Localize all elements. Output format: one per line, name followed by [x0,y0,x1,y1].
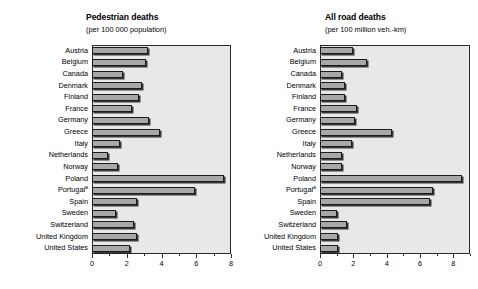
category-label: Spain [297,198,316,206]
category-label: Belgium [290,58,316,66]
bar [320,245,338,252]
category-label: Sweden [62,209,88,217]
axis-minor-tick [437,254,438,256]
bar [320,82,345,89]
axis-tick-label: 8 [229,260,233,268]
bar [92,59,146,66]
bar [92,94,139,101]
category-label: United States [272,244,316,252]
bar [320,94,345,101]
bar [92,210,116,217]
bar [92,117,149,124]
axis-tick-label: 6 [194,260,198,268]
axis-tick-label: 4 [159,260,163,268]
axis-tick-label: 0 [318,260,322,268]
bar [320,152,342,159]
bar [320,233,338,240]
axis-minor-tick [179,254,180,256]
chart-panel-all-road-deaths: All road deaths (per 100 million veh.-km… [239,0,478,289]
bar [320,117,355,124]
axis-tick-label: 8 [451,260,455,268]
category-label: Greece [292,128,316,136]
category-label: Austria [293,47,316,55]
bar [92,245,130,252]
category-label: Belgium [62,58,88,66]
axis-minor-tick [403,254,404,256]
axis-tick-label: 0 [90,260,94,268]
chart-header-right: All road deaths (per 100 million veh.-km… [325,12,475,35]
bar [320,140,352,147]
bar [320,221,347,228]
footnote-marker: a [85,184,88,190]
category-label: Netherlands [277,151,316,159]
bar [92,129,160,136]
bar [320,198,430,205]
category-label: Germany [58,116,88,124]
category-label: Sweden [290,209,316,217]
category-label: France [293,105,316,113]
axis-tick [420,254,421,258]
category-label: Switzerland [50,221,88,229]
category-label: Canada [290,70,316,78]
chart-title-right: All road deaths [325,12,475,23]
category-label: Portugala [58,186,88,194]
category-label: Norway [63,163,88,171]
category-label: Spain [69,198,88,206]
category-label: Canada [62,70,88,78]
category-label: Austria [65,47,88,55]
bar [92,47,148,54]
bar [92,105,132,112]
chart-title-left: Pedestrian deaths [86,12,236,23]
bar [92,198,137,205]
axis-tick [196,254,197,258]
category-label: Poland [65,175,88,183]
category-label: Germany [286,116,316,124]
bar [320,175,462,182]
category-label: Poland [293,175,316,183]
axis-tick [92,254,93,258]
category-label: Denmark [58,82,88,90]
category-label: Netherlands [49,151,88,159]
chart-subtitle-left: (per 100 000 population) [86,24,236,35]
footnote-marker: a [313,184,316,190]
chart-header-left: Pedestrian deaths (per 100 000 populatio… [86,12,236,35]
bar [92,152,108,159]
bar [92,221,134,228]
category-axis-right: AustriaBelgiumCanadaDenmarkFinlandFrance… [239,45,316,254]
category-label: United Kingdom [264,233,316,241]
axis-minor-tick [144,254,145,256]
bar [320,105,357,112]
bar [320,163,342,170]
axis-tick [387,254,388,258]
bar [320,129,392,136]
category-label: United States [44,244,88,252]
figure-container: Pedestrian deaths (per 100 000 populatio… [0,0,478,289]
axis-tick [453,254,454,258]
axis-minor-tick [214,254,215,256]
chart-subtitle-right: (per 100 million veh.-km) [325,24,475,35]
bar [320,187,433,194]
bar [92,233,137,240]
bar [92,82,142,89]
bar [320,59,367,66]
category-label: Italy [303,140,316,148]
axis-tick-label: 4 [385,260,389,268]
axis-tick [353,254,354,258]
category-label: Greece [64,128,88,136]
axis-tick-label: 2 [351,260,355,268]
category-label: Italy [75,140,88,148]
bar [92,163,118,170]
category-axis-left: AustriaBelgiumCanadaDenmarkFinlandFrance… [0,45,88,254]
axis-tick-label: 2 [125,260,129,268]
bar [92,71,123,78]
category-label: Portugala [286,186,316,194]
bar [320,210,337,217]
category-label: France [65,105,88,113]
bar [92,140,120,147]
category-label: Norway [291,163,316,171]
bar [92,187,195,194]
axis-minor-tick [109,254,110,256]
category-label: United Kingdom [36,233,88,241]
axis-tick-label: 6 [418,260,422,268]
axis-tick [231,254,232,258]
